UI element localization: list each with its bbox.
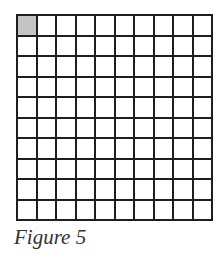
- grid-cell: [96, 37, 114, 56]
- grid-cell: [194, 160, 212, 179]
- grid-cell: [116, 160, 134, 179]
- grid-cell: [96, 57, 114, 76]
- grid-cell: [135, 16, 153, 35]
- grid-cell: [96, 139, 114, 158]
- grid-cell: [18, 180, 36, 199]
- grid-cell: [96, 78, 114, 97]
- grid-cell: [194, 37, 212, 56]
- grid-cell: [155, 180, 173, 199]
- grid-cell: [174, 98, 192, 117]
- grid-cell: [174, 37, 192, 56]
- grid-cell: [38, 16, 56, 35]
- grid-cell: [18, 160, 36, 179]
- hundred-square-grid: [16, 14, 213, 221]
- figure-caption: Figure 5: [14, 227, 86, 248]
- grid-cell: [77, 139, 95, 158]
- grid-cell: [174, 201, 192, 220]
- grid-cell: [116, 57, 134, 76]
- grid-cell: [77, 180, 95, 199]
- grid-cell: [135, 180, 153, 199]
- grid-cell: [116, 139, 134, 158]
- grid-cell: [174, 139, 192, 158]
- grid-cell: [96, 16, 114, 35]
- grid-cell: [57, 160, 75, 179]
- grid-cell: [38, 180, 56, 199]
- grid-cell: [96, 98, 114, 117]
- grid-cell: [18, 119, 36, 138]
- grid-cell: [18, 98, 36, 117]
- grid-cell: [174, 160, 192, 179]
- grid-cell: [18, 139, 36, 158]
- grid-cell: [57, 37, 75, 56]
- grid-cell: [38, 37, 56, 56]
- grid-cell: [57, 57, 75, 76]
- grid-cell: [194, 139, 212, 158]
- grid-cell: [96, 201, 114, 220]
- grid-cell: [135, 119, 153, 138]
- grid-cell: [96, 160, 114, 179]
- grid-cell: [135, 139, 153, 158]
- grid-cell: [77, 201, 95, 220]
- grid-cell: [38, 139, 56, 158]
- grid-cell: [135, 57, 153, 76]
- grid-cell: [77, 57, 95, 76]
- grid-cell: [116, 201, 134, 220]
- grid-cell: [38, 98, 56, 117]
- grid-cell: [77, 160, 95, 179]
- grid-cell: [194, 16, 212, 35]
- grid-cell: [194, 180, 212, 199]
- grid-cell: [57, 180, 75, 199]
- grid-cell: [194, 98, 212, 117]
- grid-cell: [18, 201, 36, 220]
- grid-cell: [155, 119, 173, 138]
- grid-cell: [194, 201, 212, 220]
- grid-cell: [38, 160, 56, 179]
- grid-cell: [155, 139, 173, 158]
- grid-cell: [135, 201, 153, 220]
- grid-cell: [155, 78, 173, 97]
- grid-cell: [135, 98, 153, 117]
- grid-cell: [116, 16, 134, 35]
- grid-cell: [135, 37, 153, 56]
- grid-cell: [57, 16, 75, 35]
- grid-cell: [18, 78, 36, 97]
- grid-cell-shaded: [18, 16, 36, 35]
- grid-cell: [116, 119, 134, 138]
- grid-cell: [135, 78, 153, 97]
- grid-cell: [174, 16, 192, 35]
- grid-cell: [194, 119, 212, 138]
- grid-cell: [38, 201, 56, 220]
- grid-cell: [57, 201, 75, 220]
- grid-cell: [96, 180, 114, 199]
- grid-cell: [38, 78, 56, 97]
- grid-cell: [18, 57, 36, 76]
- grid-cell: [194, 78, 212, 97]
- grid-cell: [116, 180, 134, 199]
- grid-cell: [174, 180, 192, 199]
- grid-cell: [77, 16, 95, 35]
- grid-cell: [155, 57, 173, 76]
- grid-cell: [77, 119, 95, 138]
- grid-cell: [174, 119, 192, 138]
- grid-cell: [38, 57, 56, 76]
- grid-cell: [18, 37, 36, 56]
- grid-cell: [116, 37, 134, 56]
- grid-cell: [155, 37, 173, 56]
- grid-cell: [174, 57, 192, 76]
- grid-cell: [96, 119, 114, 138]
- grid-cell: [77, 98, 95, 117]
- grid-cell: [116, 98, 134, 117]
- grid-cell: [155, 98, 173, 117]
- grid-cell: [57, 139, 75, 158]
- grid-cell: [77, 78, 95, 97]
- grid-cell: [57, 98, 75, 117]
- grid-cell: [38, 119, 56, 138]
- grid-cell: [77, 37, 95, 56]
- grid-cell: [155, 160, 173, 179]
- grid-cell: [57, 119, 75, 138]
- grid-cell: [174, 78, 192, 97]
- grid-cell: [116, 78, 134, 97]
- grid-cell: [155, 16, 173, 35]
- grid-cell: [57, 78, 75, 97]
- grid-cell: [194, 57, 212, 76]
